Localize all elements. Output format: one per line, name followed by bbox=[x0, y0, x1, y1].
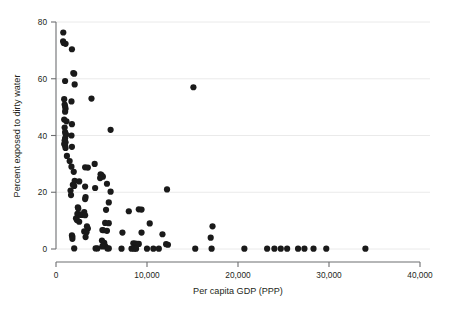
y-ticklabel-20: 20 bbox=[38, 187, 48, 197]
data-point bbox=[82, 183, 88, 189]
data-point bbox=[68, 98, 74, 104]
data-point bbox=[362, 246, 368, 252]
data-point bbox=[76, 219, 82, 225]
data-point bbox=[150, 246, 156, 252]
data-point bbox=[104, 181, 110, 187]
data-point bbox=[147, 220, 153, 226]
scatter-chart: 020406080 010,00020,00030,00040,000 Per … bbox=[0, 0, 452, 311]
data-point bbox=[118, 246, 124, 252]
data-point bbox=[104, 228, 110, 234]
data-point bbox=[323, 246, 329, 252]
data-point bbox=[301, 246, 307, 252]
data-point bbox=[126, 208, 132, 214]
x-ticklabel-20000: 20,000 bbox=[225, 270, 251, 280]
x-ticklabel-30000: 30,000 bbox=[316, 270, 342, 280]
y-ticklabel-0: 0 bbox=[42, 244, 47, 254]
data-point bbox=[133, 246, 139, 252]
data-point bbox=[209, 223, 215, 229]
data-point bbox=[103, 207, 109, 213]
y-ticklabel-60: 60 bbox=[38, 74, 48, 84]
data-point bbox=[92, 185, 98, 191]
data-point bbox=[119, 229, 125, 235]
x-ticklabel-10000: 10,000 bbox=[134, 270, 160, 280]
data-point bbox=[144, 246, 150, 252]
data-point bbox=[208, 235, 214, 241]
data-point bbox=[88, 96, 94, 102]
data-point bbox=[271, 246, 277, 252]
data-point bbox=[85, 164, 91, 170]
y-ticklabel-80: 80 bbox=[38, 17, 48, 27]
data-point bbox=[71, 71, 77, 77]
data-point bbox=[156, 246, 162, 252]
data-point bbox=[310, 246, 316, 252]
data-point bbox=[190, 84, 196, 90]
data-point bbox=[76, 178, 82, 184]
x-ticklabel-40000: 40,000 bbox=[407, 270, 433, 280]
x-axis-title: Per capita GDP (PPP) bbox=[193, 286, 283, 296]
data-point bbox=[92, 161, 98, 167]
data-point bbox=[61, 96, 67, 102]
y-ticklabel-40: 40 bbox=[38, 131, 48, 141]
data-point bbox=[68, 192, 74, 198]
data-point bbox=[69, 121, 75, 127]
x-axis: 010,00020,00030,00040,000 bbox=[54, 262, 433, 280]
data-point bbox=[82, 212, 88, 218]
data-point bbox=[62, 145, 68, 151]
x-ticklabel-0: 0 bbox=[54, 270, 59, 280]
data-point bbox=[82, 196, 88, 202]
data-point bbox=[106, 245, 112, 251]
data-point bbox=[94, 245, 100, 251]
data-point bbox=[264, 246, 270, 252]
data-point bbox=[165, 242, 171, 248]
data-point bbox=[138, 229, 144, 235]
data-point bbox=[295, 246, 301, 252]
data-points-layer bbox=[60, 29, 369, 251]
data-point bbox=[241, 246, 247, 252]
data-point bbox=[164, 186, 170, 192]
gridlines bbox=[56, 22, 430, 249]
data-point bbox=[138, 206, 144, 212]
data-point bbox=[62, 109, 68, 115]
data-point bbox=[72, 81, 78, 87]
data-point bbox=[62, 78, 68, 84]
data-point bbox=[60, 29, 66, 35]
data-point bbox=[97, 175, 103, 181]
x-tick-group: 010,00020,00030,00040,000 bbox=[54, 262, 433, 280]
data-point bbox=[108, 189, 114, 195]
data-point bbox=[192, 246, 198, 252]
data-point bbox=[278, 246, 284, 252]
data-point bbox=[63, 118, 69, 124]
data-point bbox=[69, 46, 75, 52]
data-point bbox=[82, 234, 88, 240]
data-point bbox=[209, 246, 215, 252]
y-tick-group: 020406080 bbox=[38, 17, 56, 254]
data-point bbox=[62, 41, 68, 47]
data-point bbox=[71, 245, 77, 251]
data-point bbox=[69, 236, 75, 242]
data-point bbox=[71, 169, 77, 175]
data-point bbox=[106, 220, 112, 226]
data-point bbox=[68, 132, 74, 138]
data-point bbox=[67, 158, 73, 164]
data-point bbox=[69, 144, 75, 150]
data-point bbox=[284, 246, 290, 252]
plot-canvas: 020406080 010,00020,00030,00040,000 Per … bbox=[0, 0, 452, 311]
data-point bbox=[108, 127, 114, 133]
y-axis-title: Percent exposed to dirty water bbox=[12, 75, 22, 198]
y-axis: 020406080 bbox=[38, 17, 56, 254]
data-point bbox=[159, 231, 165, 237]
data-point bbox=[106, 199, 112, 205]
data-point bbox=[75, 205, 81, 211]
